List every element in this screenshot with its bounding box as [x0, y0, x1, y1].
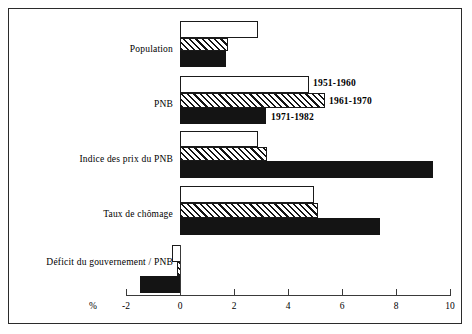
category-label-pnb: PNB [21, 100, 173, 110]
bar-population-1961-1970 [180, 38, 228, 51]
category-label-indice-des-prix-du-pnb: Indice des prix du PNB [21, 155, 173, 165]
x-axis-tick-6 [342, 289, 343, 296]
x-axis-tick-10 [450, 289, 451, 296]
bar-deficit-1971-1982 [140, 276, 181, 293]
x-axis-tick-label-8: 8 [381, 302, 411, 312]
x-axis-tick-label-minus2: -2 [111, 302, 141, 312]
x-axis-tick-label-4: 4 [273, 302, 303, 312]
x-axis-unit-label: % [89, 302, 97, 312]
category-label-population: Population [21, 45, 173, 55]
x-axis-tick-label-10: 10 [435, 302, 465, 312]
x-axis-tick-label-0: 0 [165, 302, 195, 312]
legend-label-1971-1982: 1971-1982 [271, 113, 314, 123]
bar-indice-1961-1970 [180, 147, 267, 161]
bar-pnb-1951-1960 [180, 76, 309, 93]
bar-indice-1951-1960 [180, 131, 258, 147]
bar-chart-plot-area: Population PNB Indice des prix du PNB Ta… [9, 9, 463, 325]
bar-population-1971-1982 [180, 51, 226, 67]
bar-pnb-1961-1970 [180, 93, 325, 108]
zero-baseline [180, 245, 181, 295]
chart-frame: Population PNB Indice des prix du PNB Ta… [8, 8, 462, 324]
x-axis-tick-2 [234, 289, 235, 296]
bar-population-1951-1960 [180, 21, 258, 38]
bar-indice-1971-1982 [180, 161, 433, 178]
x-axis-tick-8 [396, 289, 397, 296]
bar-pnb-1971-1982 [180, 108, 266, 124]
x-axis-tick-0 [180, 289, 181, 296]
bar-taux-chomage-1951-1960 [180, 186, 314, 203]
x-axis-tick-label-6: 6 [327, 302, 357, 312]
legend-label-1961-1970: 1961-1970 [329, 97, 372, 107]
category-label-taux-de-chomage: Taux de chômage [21, 210, 173, 220]
bar-taux-chomage-1971-1982 [180, 218, 380, 235]
bar-taux-chomage-1961-1970 [180, 203, 318, 218]
x-axis-tick-4 [288, 289, 289, 296]
x-axis-tick-minus2 [126, 289, 127, 296]
category-label-deficit-du-gouvernement-pnb: Déficit du gouvernement / PNB [13, 258, 173, 268]
legend-label-1951-1960: 1951-1960 [313, 79, 356, 89]
x-axis-tick-label-2: 2 [219, 302, 249, 312]
